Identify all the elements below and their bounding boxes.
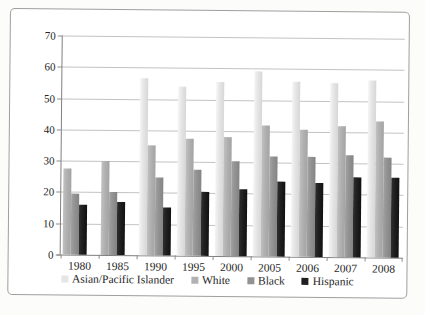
bar-hispanic-2007 [353,177,362,257]
legend-swatch [302,277,309,284]
chart-screenshot: 7060504030201001980198519901995200020052… [0,0,425,315]
y-axis-label: 20 [26,186,54,197]
legend-item-asian-pacific-islander: Asian/Pacific Islander [61,273,174,286]
legend: Asian/Pacific IslanderWhiteBlackHispanic [8,272,406,288]
x-axis-label: 2000 [212,261,250,273]
bar-hispanic-2008 [391,178,400,258]
x-axis-tick [99,255,100,259]
x-axis-tick [251,256,252,260]
bar-group-2000: 2000 [213,37,253,256]
x-axis-label: 1985 [98,260,136,272]
legend-swatch [247,277,254,284]
x-axis-tick [289,257,290,261]
bar-group-2006: 2006 [289,38,329,257]
y-axis-label: 50 [27,93,55,104]
y-axis-label: 30 [26,155,54,166]
legend-label: Asian/Pacific Islander [72,273,174,286]
y-axis-label: 40 [27,124,55,135]
chart-frame: 7060504030201001980198519901995200020052… [7,8,410,299]
bar-group-2008: 2008 [365,38,405,257]
y-axis-label: 70 [28,30,56,41]
x-axis-label: 2006 [288,262,326,274]
x-axis-tick [61,254,62,258]
bar-group-1995: 1995 [175,37,215,256]
bar-hispanic-1980 [79,205,87,255]
bar-group-2005: 2005 [251,37,291,256]
bar-hispanic-1990 [163,207,171,255]
x-axis-label: 1990 [136,260,174,272]
y-axis-label: 10 [26,218,54,229]
x-axis-tick [137,255,138,259]
bar-group-1990: 1990 [137,36,177,255]
bar-group-1985: 1985 [99,36,139,255]
x-axis-tick [365,257,366,261]
legend-label: Hispanic [313,275,354,287]
bar-hispanic-1995 [201,192,210,256]
x-axis-tick [327,257,328,261]
x-axis-label: 2007 [326,262,364,274]
legend-label: White [202,274,230,286]
bar-hispanic-2000 [239,189,248,256]
bar-group-2007: 2007 [327,38,367,257]
x-axis-tick [213,256,214,260]
bar-hispanic-2006 [315,183,324,257]
legend-swatch [61,275,68,282]
x-axis-label: 1980 [60,259,98,271]
plot-area: 7060504030201001980198519901995200020052… [61,36,405,258]
bar-group-1980: 1980 [61,36,101,255]
legend-item-white: White [191,274,230,286]
x-axis-label: 2008 [364,262,402,274]
x-axis-tick [402,258,403,262]
legend-item-black: Black [247,274,285,286]
bar-hispanic-1985 [117,202,126,255]
y-axis-label: 60 [27,61,55,72]
y-axis-label: 0 [26,249,54,260]
legend-label: Black [258,274,285,286]
x-axis-label: 1995 [174,261,212,273]
x-axis-label: 2005 [250,261,288,273]
legend-swatch [191,276,198,283]
x-axis-tick [175,256,176,260]
bar-hispanic-2005 [277,182,286,257]
legend-item-hispanic: Hispanic [302,275,354,287]
